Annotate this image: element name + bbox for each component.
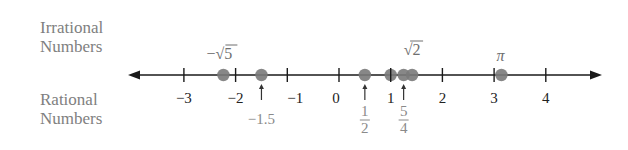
fraction-denominator: 2 [361,120,369,136]
point-dot [217,69,229,81]
tick-label: 0 [332,90,340,106]
arrowhead-icon [401,84,406,89]
point-dot [397,69,409,81]
point-dot [495,69,507,81]
left-arrow-icon [128,71,140,80]
fraction-numerator: 5 [400,103,408,119]
arrowhead-icon [259,84,264,89]
tick-label: 2 [439,90,447,106]
tick-label: 1 [387,90,395,106]
tick-label: 4 [542,90,550,106]
right-arrow-icon [590,71,602,80]
rational-label: −1.5 [248,111,275,127]
irrational-label: √2 [404,41,421,58]
tick-label: −3 [176,90,192,106]
point-dot [255,69,267,81]
tick-label: 3 [490,90,498,106]
tick-label: −2 [228,90,244,106]
number-line: −3−2−101234−√5√2π−1.51254 [0,0,628,150]
point-dot [359,69,371,81]
fraction-denominator: 4 [400,120,408,136]
fraction-numerator: 1 [361,103,369,119]
irrational-label: π [496,47,505,64]
tick-label: −1 [287,90,303,106]
irrational-label: −√5 [206,45,232,62]
arrowhead-icon [362,84,367,89]
